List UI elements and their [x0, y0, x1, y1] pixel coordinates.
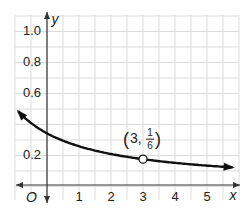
tick-labels: 123450.20.60.81.0Oxy	[23, 11, 238, 205]
open-point	[139, 155, 147, 163]
y-tick-label: 0.6	[23, 85, 41, 100]
x-tick-label: 3	[139, 189, 146, 204]
x-tick-label: 2	[107, 189, 114, 204]
y-tick-label: 0.8	[23, 54, 41, 69]
origin-label: O	[26, 189, 37, 205]
x-axis-label: x	[229, 187, 238, 203]
x-tick-label: 1	[75, 189, 82, 204]
point-label-denominator: 6	[147, 140, 153, 151]
point-label-x: 3,	[130, 130, 142, 146]
point-label-paren-left: (	[123, 129, 129, 149]
y-axis-arrow-down	[44, 196, 50, 203]
x-axis-arrow-left	[16, 182, 23, 188]
x-tick-label: 5	[203, 189, 210, 204]
curve-arrow-right	[223, 163, 234, 171]
graph: 123450.20.60.81.0Oxy (3,16)	[0, 0, 250, 215]
point-label-paren-right: )	[155, 129, 161, 149]
y-tick-label: 0.2	[23, 147, 41, 162]
grid	[15, 15, 239, 200]
y-axis-label: y	[51, 11, 60, 27]
axes	[16, 12, 240, 203]
point-label-numerator: 1	[147, 127, 153, 138]
y-tick-label: 1.0	[23, 23, 41, 38]
x-tick-label: 4	[171, 189, 178, 204]
